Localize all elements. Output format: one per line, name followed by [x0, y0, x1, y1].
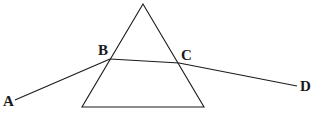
label-c: C — [181, 47, 192, 63]
label-d: D — [300, 78, 311, 94]
incident-ray-ab — [15, 59, 110, 100]
refracted-ray-bc — [110, 59, 179, 63]
emergent-ray-cd — [179, 63, 297, 86]
label-b: B — [98, 42, 108, 58]
prism-diagram: A B C D — [0, 0, 312, 114]
label-a: A — [3, 93, 14, 109]
